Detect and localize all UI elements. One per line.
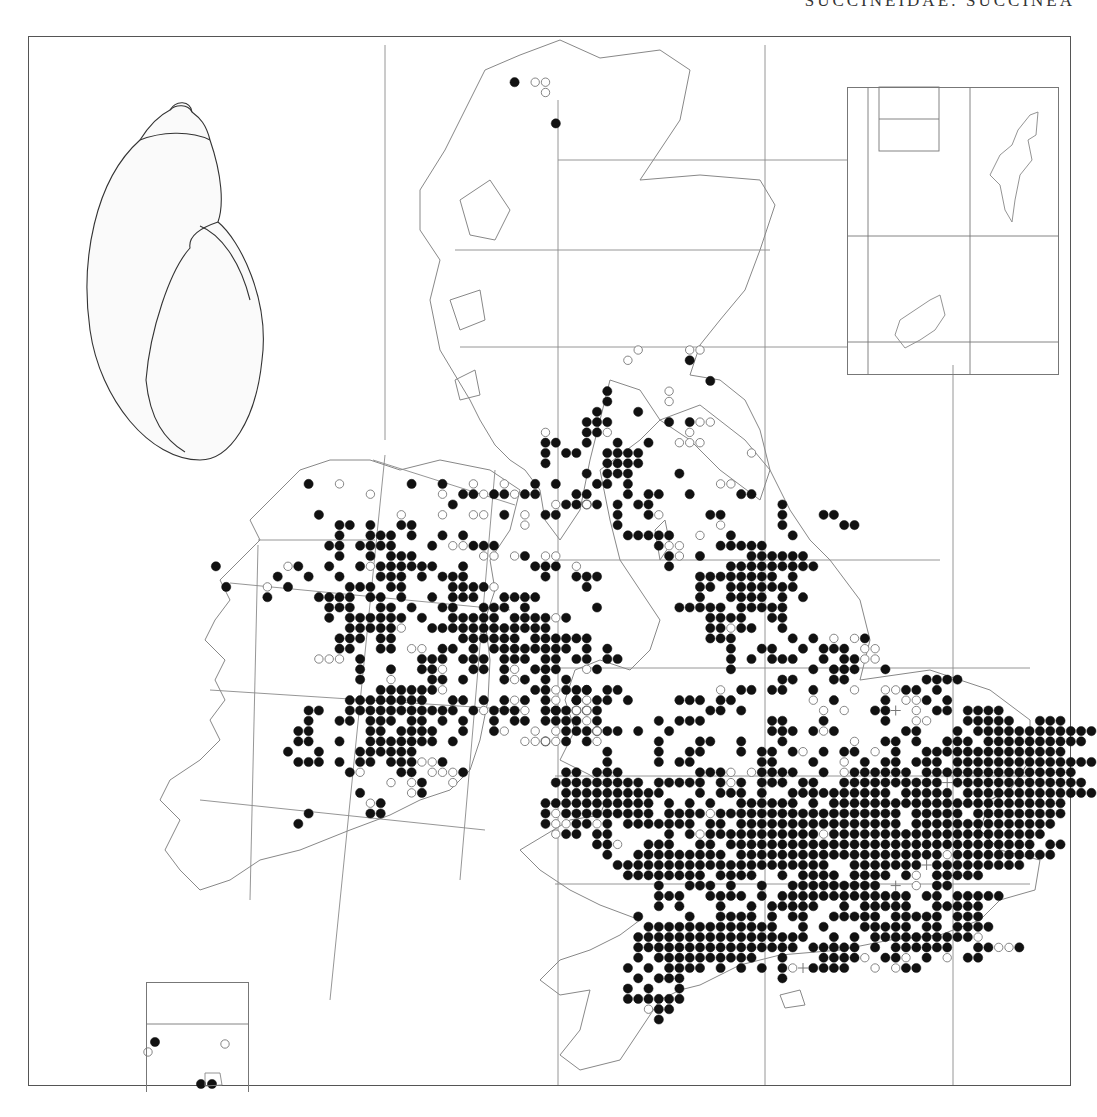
filled-record-dot — [397, 768, 406, 777]
filled-record-dot — [386, 531, 395, 540]
filled-record-dot — [963, 922, 972, 931]
filled-record-dot — [706, 613, 715, 622]
filled-record-dot — [778, 624, 787, 633]
filled-record-dot — [551, 479, 560, 488]
filled-record-dot — [768, 685, 777, 694]
filled-record-dot — [809, 943, 818, 952]
filled-record-dot — [1025, 809, 1034, 818]
filled-record-dot — [675, 819, 684, 828]
open-record-dot — [747, 768, 755, 776]
filled-record-dot — [798, 881, 807, 890]
filled-record-dot — [1004, 768, 1013, 777]
filled-record-dot — [747, 850, 756, 859]
filled-record-dot — [489, 644, 498, 653]
filled-record-dot — [654, 871, 663, 880]
open-record-dot — [572, 562, 580, 570]
open-record-dot — [686, 439, 694, 447]
filled-record-dot — [788, 912, 797, 921]
filled-record-dot — [386, 634, 395, 643]
plus-record — [891, 881, 901, 891]
filled-record-dot — [397, 696, 406, 705]
filled-record-dot — [582, 634, 591, 643]
filled-record-dot — [531, 593, 540, 602]
filled-record-dot — [417, 727, 426, 736]
filled-record-dot — [871, 933, 880, 942]
filled-record-dot — [644, 819, 653, 828]
filled-record-dot — [737, 613, 746, 622]
filled-record-dot — [819, 654, 828, 663]
filled-record-dot — [665, 963, 674, 972]
filled-record-dot — [829, 933, 838, 942]
filled-record-dot — [376, 799, 385, 808]
filled-record-dot — [294, 727, 303, 736]
filled-record-dot — [644, 510, 653, 519]
filled-record-dot — [716, 603, 725, 612]
filled-record-dot — [562, 706, 571, 715]
filled-record-dot — [747, 902, 756, 911]
filled-record-dot — [943, 696, 952, 705]
filled-record-dot — [932, 912, 941, 921]
filled-record-dot — [788, 675, 797, 684]
filled-record-dot — [1056, 840, 1065, 849]
filled-record-dot — [819, 850, 828, 859]
filled-record-dot — [1056, 757, 1065, 766]
filled-record-dot — [634, 407, 643, 416]
filled-record-dot — [438, 654, 447, 663]
filled-record-dot — [716, 830, 725, 839]
filled-record-dot — [356, 634, 365, 643]
open-record-dot — [325, 655, 333, 663]
filled-record-dot — [881, 696, 890, 705]
filled-record-dot — [737, 840, 746, 849]
filled-record-dot — [592, 830, 601, 839]
filled-record-dot — [1004, 716, 1013, 725]
open-record-dot — [655, 511, 663, 519]
filled-record-dot — [541, 665, 550, 674]
filled-record-dot — [695, 696, 704, 705]
filled-record-dot — [1077, 778, 1086, 787]
filled-record-dot — [603, 788, 612, 797]
filled-record-dot — [768, 850, 777, 859]
filled-record-dot — [448, 603, 457, 612]
filled-record-dot — [932, 891, 941, 900]
open-record-dot — [809, 696, 817, 704]
filled-record-dot — [366, 624, 375, 633]
open-record-dot — [819, 706, 827, 714]
filled-record-dot — [1035, 778, 1044, 787]
open-record-dot — [583, 706, 591, 714]
filled-record-dot — [520, 603, 529, 612]
filled-record-dot — [366, 809, 375, 818]
filled-record-dot — [809, 902, 818, 911]
filled-record-dot — [582, 469, 591, 478]
filled-record-dot — [747, 819, 756, 828]
filled-record-dot — [1087, 788, 1096, 797]
filled-record-dot — [675, 943, 684, 952]
open-record-dot — [510, 675, 518, 683]
filled-record-dot — [314, 706, 323, 715]
filled-record-dot — [726, 696, 735, 705]
filled-record-dot — [459, 593, 468, 602]
scotland-coast — [420, 40, 775, 540]
filled-record-dot — [572, 830, 581, 839]
filled-record-dot — [500, 634, 509, 643]
filled-record-dot — [695, 582, 704, 591]
filled-record-dot — [654, 933, 663, 942]
filled-record-dot — [943, 902, 952, 911]
filled-record-dot — [634, 459, 643, 468]
filled-record-dot — [716, 809, 725, 818]
open-record-dot — [438, 490, 446, 498]
filled-record-dot — [1066, 727, 1075, 736]
filled-record-dot — [386, 562, 395, 571]
filled-record-dot — [809, 788, 818, 797]
filled-record-dot — [1015, 799, 1024, 808]
filled-record-dot — [788, 572, 797, 581]
open-record-dot — [922, 717, 930, 725]
filled-record-dot — [726, 582, 735, 591]
filled-record-dot — [716, 891, 725, 900]
filled-record-dot — [943, 706, 952, 715]
filled-record-dot — [840, 788, 849, 797]
filled-record-dot — [345, 582, 354, 591]
filled-record-dot — [428, 665, 437, 674]
filled-record-dot — [695, 572, 704, 581]
filled-record-dot — [489, 706, 498, 715]
open-record-dot — [912, 881, 920, 889]
